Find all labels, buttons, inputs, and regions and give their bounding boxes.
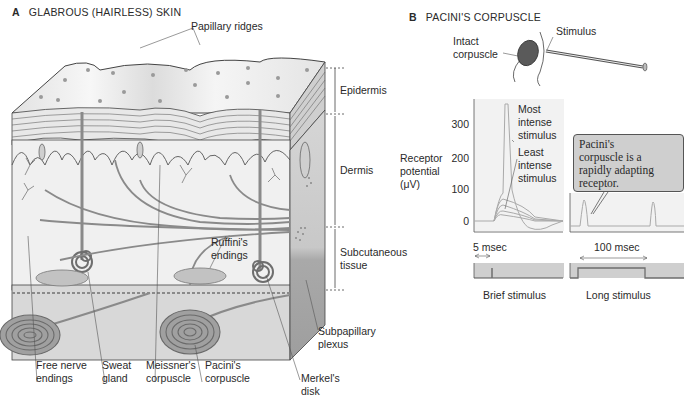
label-subpapillary-line1: Subpapillary [318, 325, 376, 338]
panel-b-title-text: PACINI'S CORPUSCLE [426, 11, 541, 23]
panel-b-letter: B [409, 11, 417, 23]
label-pacini-line1: Pacini's [205, 359, 250, 372]
label-subcutaneous-line1: Subcutaneous [340, 246, 407, 259]
y-tick-300: 300 [449, 118, 469, 131]
label-subcutaneous: Subcutaneous tissue [340, 246, 407, 272]
panel-b-title: BPACINI'S CORPUSCLE [409, 11, 541, 23]
epidermis-surface [12, 58, 325, 113]
label-merkel-line1: Merkel's [301, 372, 340, 385]
label-meissner-corpuscle: Meissner's corpuscle [146, 359, 196, 385]
annotation-most-line3: stimulus [518, 129, 557, 142]
label-long-duration: 100 msec [594, 241, 640, 254]
label-merkel-disk: Merkel's disk [301, 372, 340, 398]
label-epidermis: Epidermis [340, 84, 387, 97]
label-pacini-line2: corpuscle [205, 372, 250, 385]
annotation-least-intense: Least intense stimulus [518, 146, 557, 185]
callout-line4: receptor. [579, 177, 678, 190]
label-intact-line2: corpuscle [453, 48, 498, 61]
label-stimulus: Stimulus [556, 25, 596, 38]
label-free-nerve-endings: Free nerve endings [36, 359, 87, 385]
y-tick-0: 0 [449, 215, 469, 228]
label-ruffini-line2: endings [211, 249, 248, 262]
label-dermis: Dermis [340, 164, 373, 177]
label-intact-corpuscle: Intact corpuscle [453, 35, 498, 61]
label-free-nerve-line1: Free nerve [36, 359, 87, 372]
label-sweat-gland: Sweat gland [102, 359, 131, 385]
label-ruffini-endings: Ruffini's endings [211, 236, 248, 262]
stimulus-trace-long [570, 256, 684, 278]
callout-line1: Pacini's [579, 138, 678, 151]
label-subpapillary-plexus: Subpapillary plexus [318, 325, 376, 351]
label-ruffini-line1: Ruffini's [211, 236, 248, 249]
label-sweat-line2: gland [102, 372, 131, 385]
label-merkel-line2: disk [301, 385, 340, 398]
annotation-most-intense: Most intense stimulus [518, 103, 557, 142]
y-axis-label-line2: potential [400, 165, 443, 178]
annotation-least-line2: intense [518, 159, 557, 172]
label-pacini-corpuscle: Pacini's corpuscle [205, 359, 250, 385]
callout-line2: corpuscle is a [579, 151, 678, 164]
y-tick-100: 100 [449, 183, 469, 196]
y-axis-label-line1: Receptor [400, 152, 443, 165]
label-sweat-line1: Sweat [102, 359, 131, 372]
y-tick-200: 200 [449, 152, 469, 165]
annotation-least-line1: Least [518, 146, 557, 159]
annotation-least-line3: stimulus [518, 172, 557, 185]
receptor-potential-plot-long [570, 192, 684, 232]
y-axis-label-line3: (μV) [400, 178, 443, 191]
y-axis-label: Receptor potential (μV) [400, 152, 443, 191]
label-brief-stimulus: Brief stimulus [483, 289, 546, 302]
label-meissner-line1: Meissner's [146, 359, 196, 372]
label-papillary-ridges: Papillary ridges [191, 20, 263, 33]
label-brief-duration: 5 msec [473, 241, 507, 254]
callout-line3: rapidly adapting [579, 164, 678, 177]
label-free-nerve-line2: endings [36, 372, 87, 385]
stimulus-trace-brief [474, 254, 564, 278]
annotation-most-line2: intense [518, 116, 557, 129]
callout-rapidly-adapting: Pacini's corpuscle is a rapidly adapting… [573, 134, 684, 192]
label-meissner-line2: corpuscle [146, 372, 196, 385]
label-intact-line1: Intact [453, 35, 498, 48]
intact-corpuscle-illustration [503, 32, 647, 86]
label-subcutaneous-line2: tissue [340, 259, 407, 272]
label-subpapillary-line2: plexus [318, 338, 376, 351]
label-long-stimulus: Long stimulus [586, 289, 651, 302]
annotation-most-line1: Most [518, 103, 557, 116]
